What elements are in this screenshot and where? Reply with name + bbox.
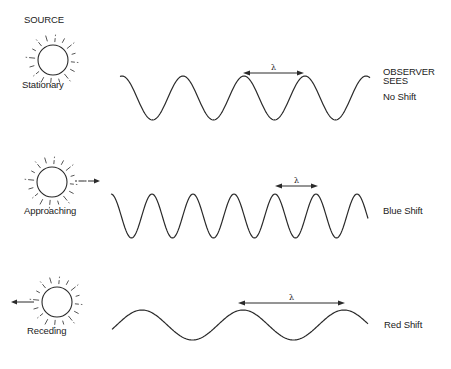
- wavelength-arrow: λ: [238, 293, 345, 306]
- lambda-label: λ: [289, 293, 294, 302]
- observed-no-shift: No Shift: [383, 92, 416, 102]
- sun-icon: [30, 277, 83, 329]
- lambda-label: λ: [294, 176, 299, 185]
- source-state-stationary: Stationary: [22, 80, 64, 90]
- observed-red-shift: Red Shift: [384, 320, 422, 330]
- motion-arrow-right-icon: [75, 179, 100, 184]
- wavelength-arrow: λ: [243, 63, 304, 76]
- light-wave: [120, 76, 370, 120]
- source-state-receding: Receding: [27, 326, 66, 336]
- observer-heading-line2: SEES: [383, 76, 408, 86]
- waves: [111, 76, 370, 340]
- sun-icon: [25, 157, 78, 209]
- motion-arrow-left-icon: [11, 300, 34, 305]
- source-state-approaching: Approaching: [24, 206, 76, 216]
- lambda-label: λ: [271, 63, 276, 72]
- source-heading: SOURCE: [24, 15, 64, 25]
- observed-blue-shift: Blue Shift: [383, 206, 423, 216]
- wavelength-arrows: λλλ: [238, 63, 345, 306]
- light-wave: [112, 310, 368, 340]
- doppler-diagram: λλλ: [0, 0, 451, 369]
- light-wave: [111, 194, 368, 238]
- wavelength-arrow: λ: [275, 176, 318, 189]
